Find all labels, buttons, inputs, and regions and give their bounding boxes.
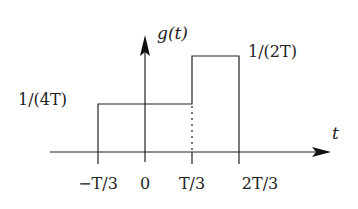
tick-label-two-thirds: 2T/3 — [242, 174, 278, 193]
level-low-label: 1/(4T) — [18, 90, 67, 109]
level-high-label: 1/(2T) — [248, 42, 297, 61]
function-plot: g(t) t 1/(2T) 1/(4T) −T/3 0 T/3 2T/3 — [0, 0, 358, 209]
tick-label-third: T/3 — [179, 174, 205, 193]
step-function-curve — [98, 56, 239, 152]
t-axis-label: t — [332, 123, 339, 143]
tick-label-neg-third: −T/3 — [78, 174, 118, 193]
function-label: g(t) — [157, 23, 188, 43]
tick-label-zero: 0 — [140, 174, 150, 193]
